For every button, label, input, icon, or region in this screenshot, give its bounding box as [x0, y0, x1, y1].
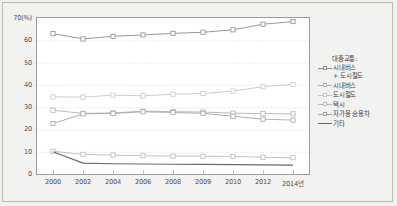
series-4	[51, 149, 295, 160]
y-axis-tick: 20	[24, 125, 32, 133]
data-point	[141, 94, 145, 98]
y-axis: 70(%)6050403020100	[0, 10, 34, 180]
data-point	[51, 122, 55, 126]
data-point	[291, 118, 295, 122]
x-axis-tick: 2012	[255, 178, 271, 186]
data-point	[81, 37, 85, 41]
data-point	[261, 85, 265, 89]
data-point	[261, 117, 265, 121]
y-axis-tick: 60	[24, 36, 32, 44]
legend-item-label: 기타	[333, 120, 345, 128]
legend-item-label: 시내버스	[333, 82, 356, 90]
y-axis-tick: 40	[24, 81, 32, 89]
data-point	[201, 111, 205, 115]
data-point	[141, 33, 145, 37]
y-axis-tick: 70(%)	[13, 14, 32, 22]
legend-swatch-icon	[318, 101, 332, 109]
data-point	[231, 154, 235, 158]
series-3	[51, 82, 295, 99]
series-5	[51, 110, 295, 126]
plot-area	[36, 17, 310, 175]
legend-item[interactable]: 도시철도	[318, 91, 394, 99]
legend-title: 대중교통:	[332, 54, 394, 63]
x-axis-tick: 2002	[75, 178, 91, 186]
data-point	[51, 95, 55, 99]
data-point	[81, 112, 85, 116]
x-axis-tick: 2014년	[282, 178, 304, 188]
legend-swatch-icon	[318, 91, 332, 99]
legend-swatch-icon	[318, 64, 332, 72]
x-axis: 200020022004200620082009201020122014년	[0, 178, 397, 194]
data-point	[261, 22, 265, 26]
data-point	[141, 110, 145, 114]
data-point	[231, 114, 235, 118]
x-axis-tick: 2009	[195, 178, 211, 186]
data-point	[111, 111, 115, 115]
x-axis-tick: 2006	[135, 178, 151, 186]
data-point	[171, 154, 175, 158]
data-point	[291, 112, 295, 116]
y-axis-tick: 10	[24, 148, 32, 156]
x-axis-tick: 2008	[165, 178, 181, 186]
data-point	[291, 82, 295, 86]
legend-item[interactable]: 기타	[318, 120, 394, 128]
data-point	[231, 89, 235, 93]
y-axis-tick: 30	[24, 103, 32, 111]
data-point	[111, 153, 115, 157]
data-point	[51, 32, 55, 36]
legend-item-label: 시내버스 + 도시철도	[333, 64, 363, 80]
data-point	[81, 95, 85, 99]
data-point	[111, 93, 115, 97]
legend-item-label: 자가용 승용차	[333, 110, 370, 118]
series-1	[51, 19, 295, 41]
data-point	[291, 156, 295, 160]
legend-item[interactable]: 시내버스	[318, 82, 394, 90]
data-point	[201, 91, 205, 95]
data-point	[261, 112, 265, 116]
data-point	[141, 154, 145, 158]
legend-item-label: 도시철도	[333, 91, 356, 99]
legend-item[interactable]: 택시	[318, 101, 394, 109]
x-axis-tick: 2000	[45, 178, 61, 186]
legend-item[interactable]: 시내버스 + 도시철도	[318, 64, 394, 80]
legend-items: 시내버스 + 도시철도시내버스도시철도택시자가용 승용차기타	[318, 64, 394, 128]
data-point	[291, 19, 295, 23]
series-line	[53, 22, 293, 39]
chart-figure: 70(%)6050403020100 200020022004200620082…	[0, 0, 397, 206]
data-point	[171, 92, 175, 96]
data-point	[231, 28, 235, 32]
chart-legend: 대중교통: 시내버스 + 도시철도시내버스도시철도택시자가용 승용차기타	[318, 54, 394, 129]
data-point	[81, 152, 85, 156]
data-point	[51, 108, 55, 112]
legend-item-label: 택시	[333, 101, 345, 109]
data-point	[111, 34, 115, 38]
y-axis-tick: 0	[28, 170, 32, 178]
plot-svg	[37, 18, 309, 174]
x-axis-tick: 2004	[105, 178, 121, 186]
x-axis-tick: 2010	[225, 178, 241, 186]
data-point	[171, 110, 175, 114]
legend-swatch-icon	[318, 110, 332, 118]
legend-swatch-icon	[318, 120, 332, 128]
data-point	[261, 155, 265, 159]
data-point	[171, 31, 175, 35]
legend-swatch-icon	[318, 82, 332, 90]
y-axis-tick: 50	[24, 59, 32, 67]
data-point	[201, 30, 205, 34]
data-point	[201, 154, 205, 158]
legend-item[interactable]: 자가용 승용차	[318, 110, 394, 118]
